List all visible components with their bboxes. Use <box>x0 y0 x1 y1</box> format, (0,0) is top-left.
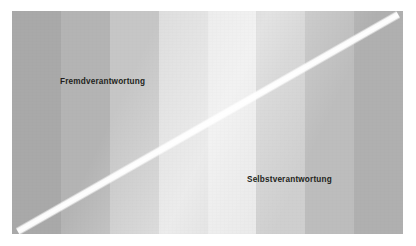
label-fremdverantwortung: Fremdverantwortung <box>60 78 145 86</box>
gradient-plate: Fremdverantwortung Selbstverantwortung <box>12 11 403 234</box>
gradient-band <box>256 11 305 234</box>
gradient-band <box>354 11 403 234</box>
gradient-band <box>12 11 61 234</box>
figure-root: Fremdverantwortung Selbstverantwortung <box>0 0 416 246</box>
gradient-band <box>110 11 159 234</box>
label-selbstverantwortung: Selbstverantwortung <box>247 176 332 184</box>
